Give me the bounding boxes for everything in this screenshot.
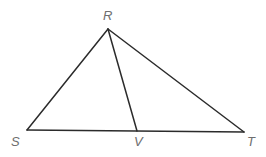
- vertex-label-t: T: [247, 135, 255, 148]
- segment-RS: [27, 29, 108, 130]
- vertex-label-s: S: [11, 135, 20, 148]
- segment-ST: [27, 130, 244, 132]
- geometry-figure: R S V T: [0, 0, 266, 157]
- segment-RV: [108, 29, 137, 131]
- figure-canvas: [0, 0, 266, 157]
- vertex-label-r: R: [103, 9, 113, 22]
- segment-RT: [108, 29, 244, 132]
- vertex-label-v: V: [134, 135, 143, 148]
